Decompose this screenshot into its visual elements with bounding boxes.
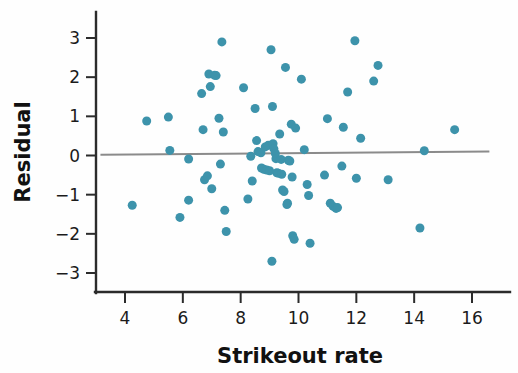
scatter-point [333,203,342,212]
scatter-point [306,239,315,248]
scatter-point [285,156,294,165]
scatter-point [175,213,184,222]
scatter-point [281,63,290,72]
scatter-point [203,171,212,180]
x-tick-label: 10 [288,308,310,328]
scatter-point [252,136,261,145]
x-tick-label: 4 [120,308,131,328]
scatter-point [207,184,216,193]
x-tick-label: 8 [235,308,246,328]
scatter-point [420,146,429,155]
scatter-point [415,223,424,232]
y-tick-label: 3 [69,28,80,48]
y-tick-labels: 3210−1−2−3 [55,28,80,283]
scatter-point [303,180,312,189]
scatter-plot-canvas: 3210−1−2−3 46810121416 Strikeout rate Re… [0,0,518,373]
scatter-point [352,174,361,183]
y-axis-title: Residual [11,101,35,202]
x-tick-marks [125,292,472,303]
scatter-point [283,199,292,208]
scatter-point [320,171,329,180]
y-tick-label: 2 [69,67,80,87]
scatter-point [300,145,309,154]
scatter-point [164,113,173,122]
y-tick-label: −2 [55,224,80,244]
x-tick-label: 14 [403,308,425,328]
scatter-point [267,45,276,54]
scatter-point [268,102,277,111]
scatter-point [199,125,208,134]
scatter-point [206,82,215,91]
y-tick-label: 1 [69,106,80,126]
scatter-point [343,88,352,97]
scatter-point [291,124,300,133]
scatter-point [212,71,221,80]
scatter-point [142,117,151,126]
y-tick-label: 0 [69,146,80,166]
scatter-point [267,257,276,266]
scatter-points-group [128,36,459,266]
scatter-point [339,123,348,132]
scatter-point [217,37,226,46]
scatter-point [216,160,225,169]
scatter-point [297,75,306,84]
scatter-point [165,146,174,155]
scatter-point [243,194,252,203]
y-tick-label: −1 [55,185,80,205]
scatter-point [277,170,286,179]
scatter-point [197,89,206,98]
scatter-point [128,201,137,210]
scatter-point [450,125,459,134]
scatter-point [280,187,289,196]
scatter-point [288,173,297,182]
regression-reference-line [100,152,489,155]
residual-scatter-figure: 3210−1−2−3 46810121416 Strikeout rate Re… [0,0,518,373]
x-tick-labels: 46810121416 [120,308,483,328]
scatter-point [374,61,383,70]
scatter-point [219,128,228,137]
scatter-point [214,114,223,123]
x-axis-title: Strikeout rate [217,344,383,368]
scatter-point [369,77,378,86]
y-tick-label: −3 [55,263,80,283]
scatter-point [251,104,260,113]
x-tick-label: 6 [177,308,188,328]
scatter-point [384,175,393,184]
scatter-point [184,155,193,164]
scatter-point [275,129,284,138]
x-tick-label: 16 [461,308,483,328]
scatter-point [350,36,359,45]
scatter-point [222,227,231,236]
scatter-point [356,134,365,143]
scatter-point [323,114,332,123]
scatter-point [248,176,257,185]
scatter-point [239,83,248,92]
scatter-point [290,235,299,244]
scatter-point [220,206,229,215]
y-tick-marks [86,38,96,273]
scatter-point [184,196,193,205]
scatter-point [304,191,313,200]
x-tick-label: 12 [346,308,368,328]
scatter-point [337,162,346,171]
